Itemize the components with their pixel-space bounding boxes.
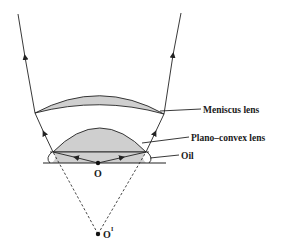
virtual-ray-right xyxy=(98,152,146,234)
leader-meniscus xyxy=(160,109,201,111)
label-oil: Oil xyxy=(181,151,194,161)
immersion-lens-diagram: Meniscus lens Plano–convex lens Oil O O … xyxy=(0,0,285,249)
leader-oil xyxy=(150,155,179,158)
label-point-o: O xyxy=(94,168,102,179)
oil-meniscus-left xyxy=(48,152,52,163)
leader-plano-convex xyxy=(142,137,189,143)
ray-out-left xyxy=(25,57,35,113)
label-point-o-prime-superscript: I xyxy=(111,226,114,232)
ray-out-right-cont xyxy=(173,13,181,55)
point-o xyxy=(96,161,100,165)
ray-mid-left xyxy=(44,133,53,152)
plano-convex-lens xyxy=(53,128,146,152)
ray-mid-left-cont xyxy=(35,113,44,133)
virtual-ray-left xyxy=(53,152,98,234)
ray-out-left-cont xyxy=(18,14,25,57)
label-point-o-prime: O xyxy=(103,229,111,240)
ray-out-right xyxy=(164,55,173,114)
ray-mid-right-cont xyxy=(155,114,164,133)
label-plano-convex-lens: Plano–convex lens xyxy=(191,133,265,143)
meniscus-lens xyxy=(35,96,164,114)
label-meniscus-lens: Meniscus lens xyxy=(203,105,260,115)
point-o-prime xyxy=(96,232,100,236)
